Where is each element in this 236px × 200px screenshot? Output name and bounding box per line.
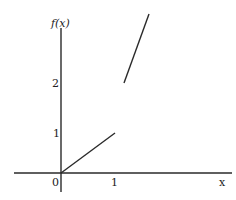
y-tick-label-1: 1 [53, 127, 60, 140]
origin-label: 0 [52, 176, 59, 189]
y-axis-label: f(x) [50, 17, 70, 30]
x-axis-label: x [219, 176, 226, 189]
segment-2-line [124, 14, 149, 83]
chart: f(x) x 0 1 1 2 [0, 0, 236, 200]
y-tick-label-2: 2 [52, 77, 59, 90]
segment-1-line [61, 133, 115, 173]
x-tick-label-1: 1 [111, 176, 118, 189]
